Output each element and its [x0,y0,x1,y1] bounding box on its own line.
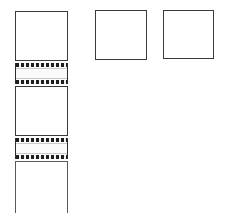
band-hairline-bottom [16,153,67,154]
band-rail-bottom-icon [16,80,67,84]
column-band-lower[interactable] [15,138,68,159]
band-rail-top-icon [16,63,67,67]
band-hairline-bottom [16,78,67,79]
column-band-upper[interactable] [15,63,68,84]
column-square-middle[interactable] [15,86,68,136]
column-square-top[interactable] [15,11,68,61]
band-rail-top-icon [16,138,67,142]
band-rail-bottom-icon [16,155,67,159]
band-hairline-top [16,143,67,144]
band-hairline-top [16,68,67,69]
diagram-canvas [0,0,232,213]
column-square-bottom[interactable] [15,161,68,213]
standalone-square-left[interactable] [95,10,147,60]
standalone-square-right[interactable] [163,10,214,59]
